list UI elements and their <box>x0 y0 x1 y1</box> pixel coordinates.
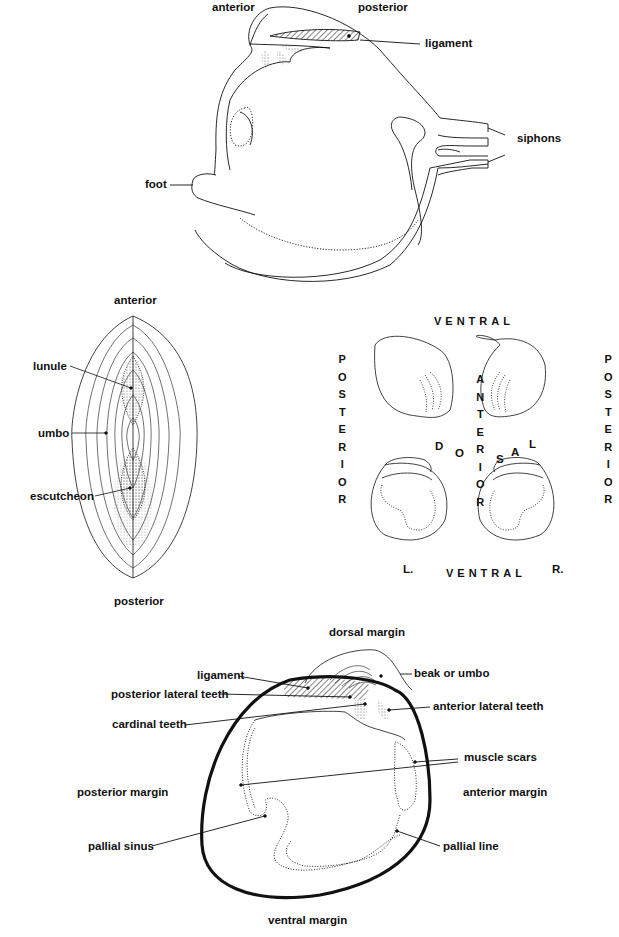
label-pallial-sinus: pallial sinus <box>88 840 154 852</box>
label-cardinal-teeth: cardinal teeth <box>112 718 187 730</box>
label-ventral-top: VENTRAL <box>434 315 514 327</box>
valve-orientation-drawing <box>371 335 554 540</box>
label-dorsal-margin: dorsal margin <box>329 626 405 638</box>
label-right-valve: R. <box>552 563 564 575</box>
label-ventral-margin: ventral margin <box>268 914 347 926</box>
label-dorsal-o: O <box>455 447 464 459</box>
label-anterior-dorsal: anterior <box>114 294 157 306</box>
label-anterior-center-vertical: A N T E R I O R <box>476 373 485 508</box>
label-umbo: umbo <box>38 427 69 439</box>
label-muscle-scars: muscle scars <box>464 751 537 763</box>
closed-shell-dorsal-drawing <box>70 316 197 578</box>
label-lunule: lunule <box>33 360 67 372</box>
label-posterior-dorsal: posterior <box>114 595 164 607</box>
label-anterior: anterior <box>212 1 255 13</box>
label-beak-or-umbo: beak or umbo <box>414 667 489 679</box>
label-ventral-bottom: VENTRAL <box>446 567 526 579</box>
label-anterior-margin: anterior margin <box>463 786 547 798</box>
label-foot: foot <box>145 178 167 190</box>
label-escutcheon: escutcheon <box>30 490 94 502</box>
label-ligament: ligament <box>425 37 472 49</box>
label-pallial-line: pallial line <box>443 840 499 852</box>
label-posterior: posterior <box>358 1 408 13</box>
label-dorsal-a: A <box>511 446 519 458</box>
label-ligament-interior: ligament <box>197 669 244 681</box>
label-siphons: siphons <box>517 132 561 144</box>
label-posterior-margin: posterior margin <box>77 786 168 798</box>
label-dorsal-l: L <box>529 438 536 450</box>
label-posterior-right-vertical: P O S T E R I O R <box>604 353 613 505</box>
label-posterior-lateral-teeth: posterior lateral teeth <box>111 688 229 700</box>
valve-interior-drawing <box>152 650 458 898</box>
label-anterior-lateral-teeth: anterior lateral teeth <box>433 700 544 712</box>
label-dorsal-d: D <box>435 440 443 452</box>
label-dorsal-s: S <box>496 453 504 465</box>
label-posterior-left-vertical: P O S T E R I O R <box>338 353 347 505</box>
label-left-valve: L. <box>403 563 413 575</box>
